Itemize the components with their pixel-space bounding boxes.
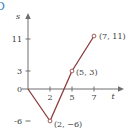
position-curve: [28, 36, 94, 121]
y-tick-label-0: 0: [17, 85, 22, 94]
annotation-2-minus6: (2, −6): [54, 120, 82, 129]
x-tick-label-2: 2: [47, 93, 52, 102]
annotation-5-3: (5, 3): [76, 68, 98, 77]
y-tick-label-minus6: -6: [14, 117, 22, 126]
data-point-marker-5-3: [70, 69, 74, 73]
x-tick-label-5: 5: [69, 93, 74, 102]
data-point-marker-7-11: [92, 34, 96, 38]
y-tick-label-11: 11: [12, 35, 22, 44]
x-axis-arrowhead: [118, 86, 124, 92]
annotation-7-11: (7, 11): [99, 32, 126, 41]
y-axis-label: s: [16, 12, 20, 21]
figure-container: D s t 11 3 0 -6 2 5 7 (2, −6): [0, 0, 130, 140]
data-point-marker-2-minus6: [48, 119, 52, 123]
y-tick-label-3: 3: [17, 67, 22, 76]
x-tick-label-7: 7: [91, 93, 96, 102]
x-axis-label: t: [111, 92, 115, 101]
piecewise-linear-chart: s t 11 3 0 -6 2 5 7 (2, −6) (5, 3) (7, 1…: [0, 0, 130, 140]
y-axis-arrowhead: [25, 13, 31, 19]
